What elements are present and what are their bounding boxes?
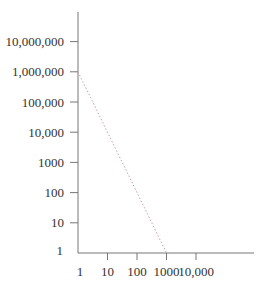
y-tick-label: 100,000	[22, 95, 64, 110]
x-tick-label: 100	[127, 264, 147, 279]
y-ticks: 110100100010,000100,0001,000,00010,000,0…	[6, 34, 79, 257]
y-tick-label: 100	[45, 185, 65, 200]
x-tick-label: 10,000	[178, 264, 214, 279]
x-tick-label: 1	[77, 264, 84, 279]
x-tick-label: 10	[101, 264, 114, 279]
x-tick-label: 1000	[154, 264, 180, 279]
y-tick-label: 1	[57, 243, 64, 258]
y-tick-label: 10	[51, 215, 64, 230]
y-tick-label: 1,000,000	[12, 64, 64, 79]
y-tick-label: 10,000,000	[6, 34, 65, 49]
series-line	[78, 72, 167, 253]
y-tick-label: 1000	[38, 155, 64, 170]
y-tick-label: 10,000	[28, 125, 64, 140]
chart: 110100100010,000100,0001,000,00010,000,0…	[0, 0, 266, 292]
series	[78, 72, 167, 253]
x-ticks: 110100100010,000	[77, 253, 214, 279]
